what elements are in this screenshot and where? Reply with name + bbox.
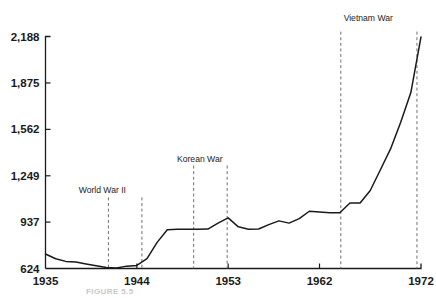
event-annotation-label: Vietnam War: [344, 13, 393, 23]
y-tick-label: 1,875: [11, 77, 40, 89]
x-tick-label: 1944: [124, 275, 150, 287]
x-tick-marks: [137, 264, 320, 269]
event-annotation-label: World War II: [79, 185, 126, 195]
x-axis-tick-labels: 19351944195319621972: [33, 275, 434, 287]
event-marker-lines: [108, 32, 417, 269]
y-tick-marks: [46, 83, 51, 222]
y-axis-line: [46, 37, 51, 269]
event-annotation-labels: World War IIKorean WarVietnam War: [79, 13, 393, 195]
x-tick-label: 1962: [307, 275, 333, 287]
y-axis-tick-labels: 6249371,2491,5621,8752,188: [11, 31, 40, 275]
y-tick-label: 624: [20, 263, 40, 275]
y-tick-label: 1,562: [11, 123, 40, 135]
x-tick-label: 1935: [33, 275, 59, 287]
y-tick-label: 937: [20, 216, 39, 228]
axes-group: [46, 37, 422, 269]
data-series-group: [46, 37, 422, 268]
x-tick-label: 1953: [215, 275, 241, 287]
event-annotation-label: Korean War: [177, 154, 223, 164]
line-chart: 6249371,2491,5621,8752,188 1935194419531…: [0, 0, 436, 298]
series-line-value: [46, 37, 422, 268]
figure-root: 6249371,2491,5621,8752,188 1935194419531…: [0, 0, 436, 298]
y-tick-label: 1,249: [11, 170, 40, 182]
y-tick-label: 2,188: [11, 31, 40, 43]
figure-caption: FIGURE 5.5: [86, 287, 134, 296]
x-tick-label: 1972: [408, 275, 434, 287]
x-axis-line: [46, 264, 422, 269]
